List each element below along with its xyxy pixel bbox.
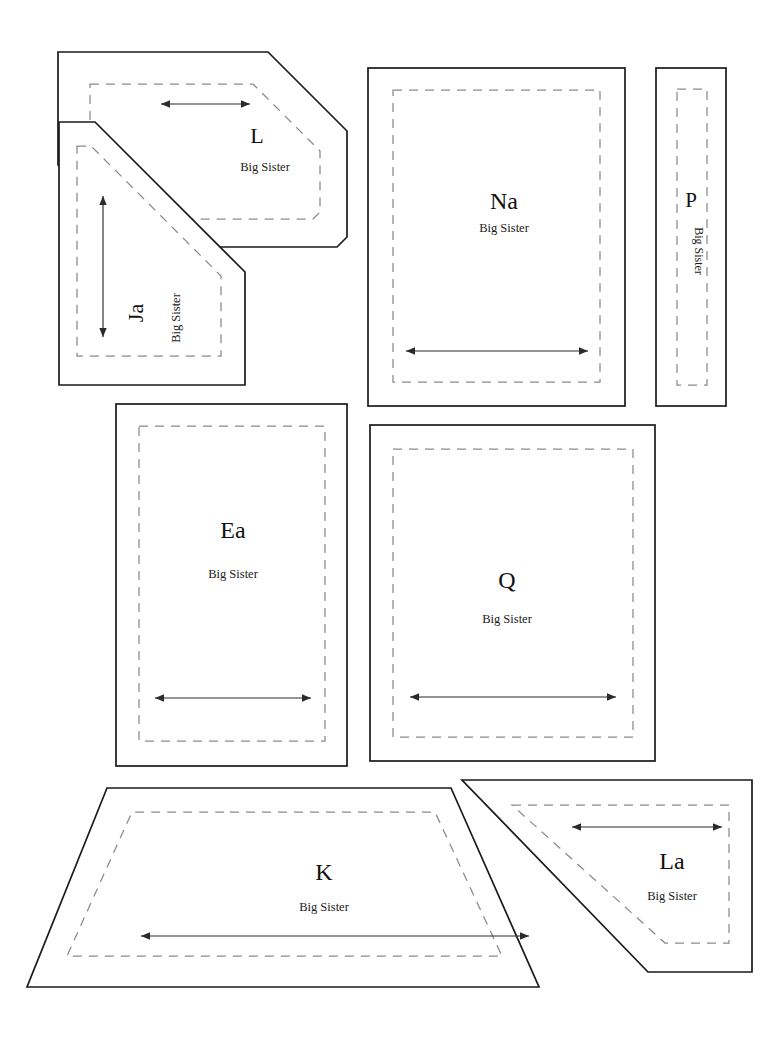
piece-Na-brand: Big Sister: [479, 221, 529, 235]
pattern-sheet: L Big Sister Ja Big Sister Na: [0, 0, 772, 1053]
piece-P-letter: P: [685, 188, 697, 212]
piece-Ea-letter: Ea: [220, 517, 246, 543]
piece-Q-cutline: [370, 425, 655, 761]
piece-Q-brand: Big Sister: [482, 612, 532, 626]
piece-Na-cutline: [368, 68, 625, 406]
piece-P-brand: Big Sister: [692, 227, 706, 275]
piece-Ja-letter: Ja: [123, 304, 148, 323]
piece-La-letter: La: [659, 848, 685, 874]
piece-K-letter: K: [315, 859, 333, 885]
piece-La-brand: Big Sister: [647, 889, 697, 903]
pattern-piece-Q[interactable]: Q Big Sister: [370, 425, 655, 761]
piece-K-cutline: [27, 788, 539, 987]
piece-Ea-cutline: [116, 404, 347, 766]
piece-P-cutline: [656, 68, 726, 406]
piece-Na-letter: Na: [490, 188, 518, 214]
piece-Q-letter: Q: [498, 567, 515, 593]
pattern-piece-P[interactable]: P Big Sister: [656, 68, 726, 406]
pattern-sheet-canvas: L Big Sister Ja Big Sister Na: [0, 0, 772, 1053]
piece-Ja-brand: Big Sister: [169, 292, 183, 342]
piece-L-letter: L: [250, 123, 263, 148]
pattern-piece-Ea[interactable]: Ea Big Sister: [116, 404, 347, 766]
piece-Ea-brand: Big Sister: [208, 567, 258, 581]
piece-K-brand: Big Sister: [299, 900, 349, 914]
piece-L-brand: Big Sister: [240, 160, 290, 174]
pattern-piece-Na[interactable]: Na Big Sister: [368, 68, 625, 406]
pattern-piece-K[interactable]: K Big Sister: [27, 788, 539, 987]
